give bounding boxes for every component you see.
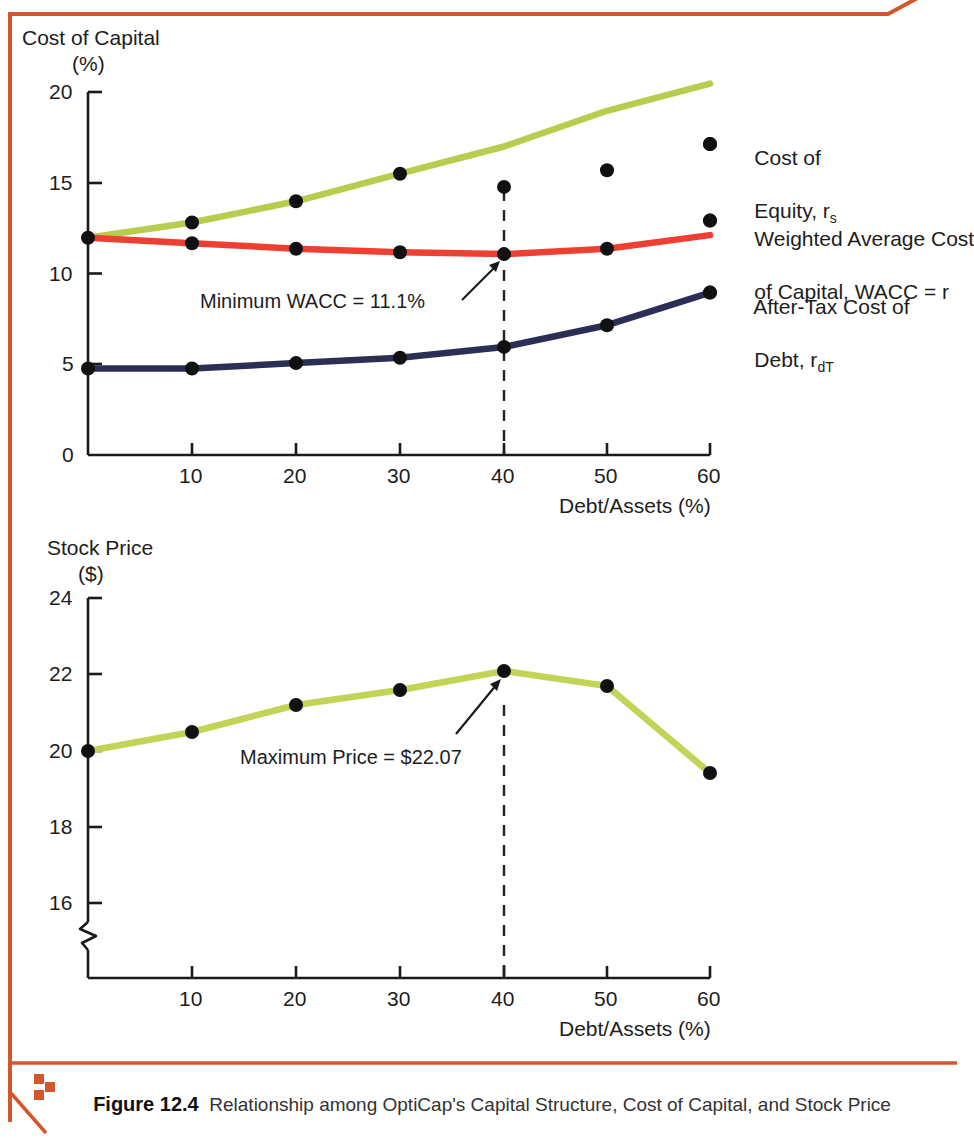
chart2-ytick-20: 20 [49,739,72,764]
chart2-y-axis-unit: ($) [78,562,104,587]
chart2-xtick-30: 30 [387,987,410,1012]
chart2-x-axis-title: Debt/Assets (%) [559,1017,711,1042]
chart2-axes [80,598,710,978]
chart2-ytick-16: 16 [49,891,72,916]
chart2-xtick-40: 40 [491,987,514,1012]
figure-number: Figure 12.4 [93,1093,199,1115]
chart2-xtick-60: 60 [697,987,720,1012]
chart2-ytick-24: 24 [49,586,72,611]
figure-marker-icon [34,1074,56,1100]
chart2-annotation-arrow [456,679,501,734]
chart2-annotation-text: Maximum Price = $22.07 [240,746,462,770]
chart2-xtick-10: 10 [179,987,202,1012]
figure-caption-body: Relationship among OptiCap's Capital Str… [209,1094,891,1115]
chart2-ytick-18: 18 [49,815,72,840]
chart2-y-axis-title: Stock Price [47,536,153,561]
chart2-ytick-22: 22 [49,662,72,687]
figure-caption: Figure 12.4 Relationship among OptiCap's… [72,1071,891,1138]
chart2-xtick-20: 20 [283,987,306,1012]
chart2-xtick-50: 50 [594,987,617,1012]
chart2-axis-break-icon [80,922,96,950]
